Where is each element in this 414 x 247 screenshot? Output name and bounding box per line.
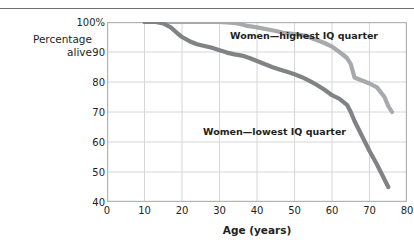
y-axis-tick-label: 70 <box>65 107 105 118</box>
x-axis-tick-label: 20 <box>176 205 189 216</box>
plot-area <box>107 22 407 202</box>
series-line-lowest-iq <box>145 22 389 187</box>
x-axis-title: Age (years) <box>107 224 407 236</box>
survival-curve-figure: Percentage alive 405060708090100% 010203… <box>0 0 414 247</box>
top-divider-rule <box>0 8 414 9</box>
x-axis-tick-label: 0 <box>104 205 110 216</box>
x-axis-tick-label: 50 <box>288 205 301 216</box>
y-axis-tick-label: 50 <box>65 167 105 178</box>
x-axis-tick-label: 70 <box>363 205 376 216</box>
x-axis-tick-label: 80 <box>401 205 414 216</box>
y-axis-tick-label: 100% <box>65 17 105 28</box>
x-axis-tick-label: 30 <box>213 205 226 216</box>
y-axis-tick-label: 40 <box>65 197 105 208</box>
y-axis-tick-labels: 405060708090100% <box>61 22 105 202</box>
x-axis-tick-labels: 01020304050607080 <box>107 205 407 221</box>
x-axis-tick-label: 10 <box>138 205 151 216</box>
chart-canvas <box>107 22 407 202</box>
y-axis-tick-label: 60 <box>65 137 105 148</box>
series-label-highest-iq: Women—highest IQ quarter <box>230 30 378 41</box>
y-axis-tick-label: 80 <box>65 77 105 88</box>
x-axis-tick-label: 40 <box>251 205 264 216</box>
series-label-lowest-iq: Women—lowest IQ quarter <box>203 126 346 137</box>
y-axis-tick-label: 90 <box>65 47 105 58</box>
x-axis-tick-label: 60 <box>326 205 339 216</box>
